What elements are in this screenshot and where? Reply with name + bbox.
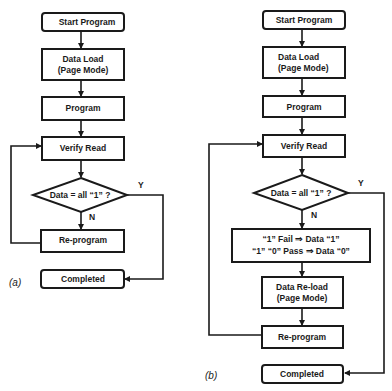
- verify-read-node: Verify Read: [263, 135, 345, 157]
- completed-node: Completed: [41, 270, 124, 288]
- panel-b: Start Program Data Load (Page Mode) Prog…: [205, 11, 384, 383]
- start-program-label: Start Program: [276, 15, 333, 25]
- no-label: N: [89, 212, 95, 222]
- start-program-node: Start Program: [263, 11, 345, 29]
- program-label: Program: [287, 102, 322, 112]
- data-load-label: Data Load: [278, 52, 319, 62]
- yes-label: Y: [138, 180, 144, 190]
- data-reload-label: Data Re-load: [276, 282, 328, 292]
- completed-label: Completed: [61, 274, 105, 284]
- rules-node: “1” Fail ⇒ Data “1” “1” “0” Pass ⇒ Data …: [232, 229, 370, 262]
- decision-node: Data = all “1” ?: [33, 178, 127, 212]
- start-program-node: Start Program: [42, 13, 124, 31]
- reprogram-node: Re-program: [262, 326, 343, 348]
- verify-read-label: Verify Read: [281, 141, 327, 151]
- panel-a-label: (a): [9, 277, 21, 288]
- reprogram-label: Re-program: [59, 235, 108, 245]
- start-program-label: Start Program: [59, 17, 116, 27]
- decision-label: Data = all “1” ?: [50, 190, 111, 200]
- reprogram-label: Re-program: [278, 332, 327, 342]
- program-label: Program: [66, 103, 101, 113]
- rule-pass-label: “1” “0” Pass ⇒ Data “0”: [252, 246, 350, 256]
- reload-page-mode-label: (Page Mode): [277, 293, 328, 303]
- decision-label: Data = all “1” ?: [271, 188, 332, 198]
- data-load-node: Data Load (Page Mode): [263, 47, 345, 78]
- rule-fail-label: “1” Fail ⇒ Data “1”: [263, 234, 340, 244]
- program-node: Program: [42, 97, 124, 120]
- panel-b-label: (b): [205, 370, 217, 381]
- data-load-label: Data Load: [62, 54, 103, 64]
- decision-node: Data = all “1” ?: [254, 175, 348, 210]
- yes-path-arrow: [345, 193, 384, 373]
- verify-read-label: Verify Read: [60, 143, 106, 153]
- completed-label: Completed: [280, 369, 324, 379]
- panel-a: Start Program Data Load (Page Mode) Prog…: [9, 13, 163, 288]
- yes-label: Y: [358, 178, 364, 188]
- data-reload-node: Data Re-load (Page Mode): [262, 277, 343, 308]
- verify-read-node: Verify Read: [42, 137, 124, 160]
- program-node: Program: [263, 96, 345, 117]
- yes-path-arrow: [125, 195, 163, 279]
- completed-node: Completed: [262, 365, 343, 383]
- no-label: N: [311, 210, 317, 220]
- data-load-node: Data Load (Page Mode): [42, 49, 124, 80]
- flowchart-canvas: Start Program Data Load (Page Mode) Prog…: [0, 0, 392, 391]
- page-mode-label: (Page Mode): [278, 63, 329, 73]
- reprogram-node: Re-program: [41, 230, 124, 252]
- page-mode-label: (Page Mode): [58, 65, 109, 75]
